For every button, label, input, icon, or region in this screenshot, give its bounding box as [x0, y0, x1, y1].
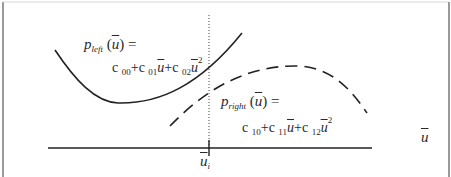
coef-sub: 01 [148, 67, 157, 77]
variable: u [287, 120, 294, 135]
coef-sub: 02 [182, 67, 191, 77]
func-subscript: right [229, 101, 247, 111]
coef-sub: 12 [312, 127, 321, 137]
coef-sub: 11 [278, 127, 287, 137]
coef: c [269, 120, 275, 135]
plus: + [131, 60, 139, 75]
coef: c [302, 120, 308, 135]
coef: c [139, 60, 145, 75]
left-curve-equation: c 00+c 01u+c 02u2 [112, 56, 202, 77]
diagram-frame [0, 0, 451, 177]
coef: c [172, 60, 178, 75]
coef: c [242, 120, 248, 135]
func-symbol: p [221, 93, 229, 109]
right-curve-label: pright (u) = [221, 94, 279, 111]
variable: u [321, 120, 328, 135]
split-point-label: ui [200, 154, 210, 171]
exponent: 2 [198, 55, 203, 65]
func-subscript: left [92, 44, 104, 54]
split-variable: u [200, 153, 208, 169]
exponent: 2 [328, 115, 333, 125]
x-axis-variable: u [421, 129, 429, 145]
func-argument: u [112, 36, 120, 52]
diagram-canvas [0, 0, 451, 177]
func-symbol: p [84, 36, 92, 52]
right-curve-equation: c 10+c 11u+c 12u2 [242, 116, 332, 137]
equals-sign: = [271, 93, 279, 109]
equals-sign: = [128, 36, 136, 52]
func-argument: u [255, 93, 263, 109]
plus: + [261, 120, 269, 135]
plus: + [294, 120, 302, 135]
variable: u [191, 60, 198, 75]
coef-sub: 00 [122, 67, 131, 77]
split-subscript: i [208, 161, 211, 171]
x-axis-label: u [421, 130, 429, 145]
coef-sub: 10 [252, 127, 261, 137]
coef: c [112, 60, 118, 75]
left-curve-label: pleft (u) = [84, 37, 136, 54]
